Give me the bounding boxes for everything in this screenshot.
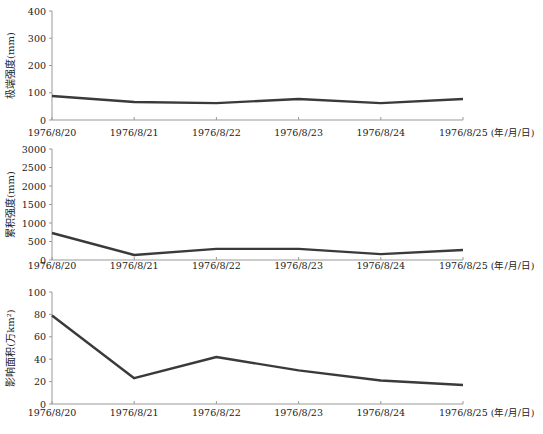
x-tick-label: 1976/8/25 (年/月/日) [439, 127, 535, 138]
x-tick-label: 1976/8/25 (年/月/日) [439, 260, 535, 271]
extreme-intensity-chart: 01002003004001976/8/201976/8/211976/8/22… [4, 6, 535, 139]
y-tick-label: 500 [28, 236, 46, 247]
y-tick-label: 3000 [22, 144, 46, 155]
y-tick-label: 1000 [22, 218, 46, 229]
x-tick-label: 1976/8/20 [28, 260, 77, 271]
x-tick-label: 1976/8/21 [110, 260, 159, 271]
y-tick-label: 1500 [22, 199, 46, 210]
y-axis-label: 影响面积(万km²) [4, 309, 16, 386]
y-tick-label: 400 [28, 6, 46, 17]
x-tick-label: 1976/8/20 [28, 127, 77, 138]
affected-area-chart: 0204060801001976/8/201976/8/211976/8/221… [4, 287, 535, 419]
affected-area-line [52, 316, 463, 386]
x-tick-label: 1976/8/24 [356, 407, 405, 418]
y-tick-label: 0 [40, 115, 46, 126]
y-tick-label: 80 [34, 309, 46, 320]
x-tick-label: 1976/8/22 [192, 407, 241, 418]
x-tick-label: 1976/8/23 [274, 260, 323, 271]
x-tick-label: 1976/8/23 [274, 127, 323, 138]
y-tick-label: 60 [34, 331, 46, 342]
figure-three-line-charts: 01002003004001976/8/201976/8/211976/8/22… [0, 0, 543, 434]
y-tick-label: 300 [28, 33, 46, 44]
cumulative-intensity-line [52, 233, 463, 255]
x-tick-label: 1976/8/25 (年/月/日) [439, 407, 535, 418]
y-tick-label: 100 [28, 287, 46, 298]
x-tick-label: 1976/8/22 [192, 260, 241, 271]
x-tick-label: 1976/8/21 [110, 127, 159, 138]
y-tick-label: 40 [34, 354, 46, 365]
y-tick-label: 100 [28, 87, 46, 98]
x-tick-label: 1976/8/24 [356, 260, 405, 271]
y-axis-label: 极端强度(mm) [4, 32, 16, 99]
y-tick-label: 200 [28, 60, 46, 71]
x-tick-label: 1976/8/22 [192, 127, 241, 138]
x-tick-label: 1976/8/20 [28, 407, 77, 418]
x-tick-label: 1976/8/23 [274, 407, 323, 418]
y-axis-label: 累积强度(mm) [4, 171, 16, 238]
x-tick-label: 1976/8/21 [110, 407, 159, 418]
y-tick-label: 20 [34, 376, 46, 387]
cumulative-intensity-chart: 0500100015002000250030001976/8/201976/8/… [4, 144, 535, 272]
extreme-intensity-line [52, 96, 463, 103]
x-tick-label: 1976/8/24 [356, 127, 405, 138]
y-tick-label: 2000 [22, 181, 46, 192]
y-tick-label: 2500 [22, 162, 46, 173]
